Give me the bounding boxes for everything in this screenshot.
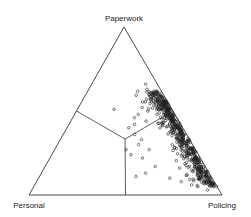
data-point: [156, 113, 159, 116]
data-point: [137, 113, 140, 116]
data-point: [176, 153, 179, 156]
data-point: [137, 143, 140, 146]
data-point: [135, 175, 138, 178]
data-point: [149, 102, 152, 105]
data-point: [113, 108, 116, 111]
data-point: [144, 101, 147, 104]
data-point: [189, 178, 192, 181]
data-point: [180, 180, 183, 183]
region-divider-line: [77, 111, 126, 139]
data-point: [147, 107, 150, 110]
data-point: [167, 133, 170, 136]
data-point: [206, 189, 209, 192]
data-point: [145, 120, 148, 123]
data-point: [141, 157, 144, 160]
data-point: [133, 116, 136, 119]
data-point: [148, 148, 151, 151]
data-point: [133, 123, 136, 126]
data-point: [159, 127, 162, 130]
data-point: [141, 101, 144, 104]
data-point: [146, 88, 149, 91]
data-point: [192, 180, 195, 183]
data-point: [144, 83, 147, 86]
data-point: [128, 127, 131, 130]
data-point: [171, 144, 174, 147]
data-point: [144, 172, 147, 175]
data-point: [178, 167, 181, 170]
data-point: [140, 138, 143, 141]
data-point: [154, 165, 157, 168]
data-point: [151, 107, 154, 110]
data-point: [141, 106, 144, 109]
data-point: [175, 159, 178, 162]
ternary-plot: Paperwork Personal Policing: [0, 0, 251, 217]
data-point: [146, 98, 149, 101]
data-point: [171, 134, 174, 137]
vertex-label-paperwork: Paperwork: [105, 14, 144, 23]
data-point: [135, 94, 138, 97]
vertex-label-policing: Policing: [208, 201, 236, 210]
data-point: [130, 153, 133, 156]
vertex-label-personal: Personal: [13, 201, 45, 210]
data-point: [190, 184, 193, 187]
region-dividers: [77, 111, 174, 195]
data-point: [172, 149, 175, 152]
data-point: [168, 177, 171, 180]
data-point: [136, 90, 139, 93]
